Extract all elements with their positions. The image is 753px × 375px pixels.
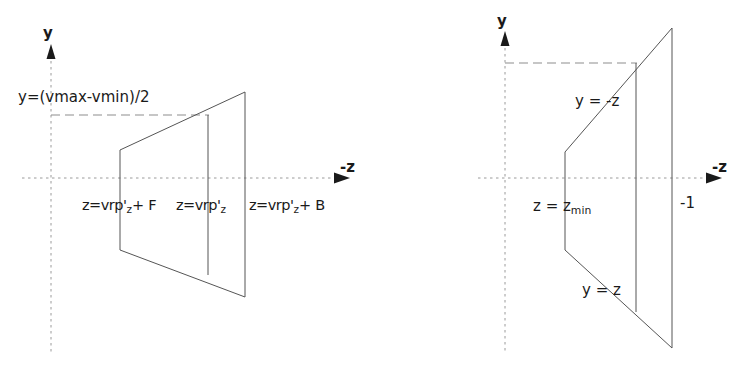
left-bottom-edge <box>120 250 245 297</box>
left-far-plane-label: z=vrp'z+ B <box>249 198 325 215</box>
left-y-axis-arrowhead <box>47 44 56 59</box>
right-near-plane-label-main: z = z <box>533 197 571 215</box>
left-projection-plane-label-sub: z <box>221 203 226 215</box>
right-bottom-edge <box>565 250 672 348</box>
left-y-axis-label: y <box>43 26 53 41</box>
right-back-plane-label: -1 <box>680 196 695 211</box>
right-z-axis-label: -z <box>712 160 727 175</box>
left-z-axis-label: -z <box>340 160 355 175</box>
left-far-plane-label-main: z=vrp' <box>249 197 294 213</box>
left-near-plane-label-main: z=vrp' <box>82 197 127 213</box>
right-top-plane-label: y = -z <box>575 94 619 109</box>
left-far-plane-label-suffix: + B <box>299 197 325 213</box>
right-y-axis-label: y <box>497 14 507 29</box>
right-top-edge <box>565 28 672 152</box>
right-bottom-plane-label: y = z <box>582 283 621 298</box>
right-near-plane-label: z = zmin <box>533 199 591 217</box>
left-near-plane-label: z=vrp'z+ F <box>82 198 156 215</box>
figure-root: y -z y=(vmax-vmin)/2 z=vrp'z+ F z=vrp'z … <box>0 0 753 375</box>
left-projection-plane-label: z=vrp'z <box>176 198 226 215</box>
right-y-axis-arrowhead <box>501 31 510 46</box>
right-near-plane-label-sub: min <box>571 204 591 217</box>
left-y-extent-label: y=(vmax-vmin)/2 <box>18 90 149 105</box>
left-projection-plane-label-main: z=vrp' <box>176 197 221 213</box>
diagram-canvas <box>0 0 753 375</box>
left-near-plane-label-suffix: + F <box>132 197 157 213</box>
right-diagram-group <box>478 28 722 352</box>
